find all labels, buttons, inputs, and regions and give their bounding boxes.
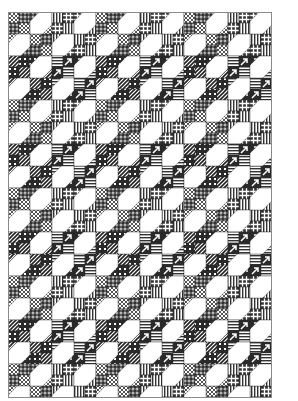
snowball-cell bbox=[30, 100, 52, 122]
quilt-block bbox=[228, 56, 272, 100]
quilt-block bbox=[8, 188, 52, 232]
snowball-cell bbox=[96, 210, 118, 232]
four-patch bbox=[140, 364, 162, 386]
quilt-block bbox=[96, 364, 140, 398]
snowball-cell bbox=[206, 320, 228, 342]
snowball-cell bbox=[30, 276, 52, 298]
four-patch bbox=[162, 210, 184, 232]
snowball-cell bbox=[74, 320, 96, 342]
quilt-block bbox=[228, 188, 272, 232]
quilt-block bbox=[8, 232, 52, 276]
four-patch bbox=[8, 188, 30, 210]
snowball-cell bbox=[250, 144, 272, 166]
snowball-cell bbox=[30, 12, 52, 34]
four-patch bbox=[162, 78, 184, 100]
four-patch bbox=[228, 320, 250, 342]
four-patch bbox=[206, 122, 228, 144]
four-patch bbox=[250, 34, 272, 56]
four-patch bbox=[118, 210, 140, 232]
snowball-cell bbox=[74, 232, 96, 254]
snowball-cell bbox=[140, 298, 162, 320]
quilt-block bbox=[8, 320, 52, 364]
four-patch bbox=[140, 144, 162, 166]
four-patch bbox=[74, 122, 96, 144]
snowball-cell bbox=[8, 34, 30, 56]
four-patch bbox=[206, 342, 228, 364]
snowball-cell bbox=[206, 12, 228, 34]
snowball-cell bbox=[96, 342, 118, 364]
four-patch bbox=[250, 166, 272, 188]
four-patch bbox=[140, 276, 162, 298]
four-patch bbox=[250, 342, 272, 364]
snowball-cell bbox=[96, 34, 118, 56]
four-patch bbox=[52, 232, 74, 254]
quilt-block bbox=[184, 144, 228, 188]
four-patch bbox=[206, 210, 228, 232]
four-patch bbox=[184, 276, 206, 298]
snowball-cell bbox=[118, 232, 140, 254]
quilt-block bbox=[8, 12, 52, 56]
four-patch bbox=[250, 210, 272, 232]
quilt-block bbox=[96, 100, 140, 144]
four-patch bbox=[228, 56, 250, 78]
quilt-block bbox=[184, 320, 228, 364]
four-patch bbox=[228, 276, 250, 298]
four-patch bbox=[250, 122, 272, 144]
four-patch bbox=[228, 12, 250, 34]
four-patch bbox=[96, 144, 118, 166]
four-patch bbox=[228, 188, 250, 210]
snowball-cell bbox=[228, 254, 250, 276]
four-patch bbox=[228, 144, 250, 166]
snowball-cell bbox=[118, 56, 140, 78]
snowball-cell bbox=[162, 56, 184, 78]
four-patch bbox=[118, 298, 140, 320]
quilt-block bbox=[96, 56, 140, 100]
quilt-block bbox=[96, 144, 140, 188]
four-patch bbox=[74, 298, 96, 320]
snowball-cell bbox=[250, 56, 272, 78]
snowball-cell bbox=[74, 12, 96, 34]
quilt-block bbox=[52, 320, 96, 364]
four-patch bbox=[8, 144, 30, 166]
quilt-block bbox=[140, 100, 184, 144]
four-patch bbox=[184, 12, 206, 34]
four-patch bbox=[30, 298, 52, 320]
four-patch bbox=[8, 232, 30, 254]
quilt-block bbox=[140, 12, 184, 56]
snowball-cell bbox=[52, 254, 74, 276]
snowball-cell bbox=[250, 100, 272, 122]
four-patch bbox=[206, 298, 228, 320]
four-patch bbox=[52, 56, 74, 78]
snowball-cell bbox=[8, 166, 30, 188]
snowball-cell bbox=[96, 166, 118, 188]
snowball-cell bbox=[118, 364, 140, 386]
snowball-cell bbox=[140, 78, 162, 100]
four-patch bbox=[206, 254, 228, 276]
snowball-cell bbox=[250, 276, 272, 298]
four-patch bbox=[118, 386, 140, 398]
four-patch bbox=[162, 254, 184, 276]
quilt-block bbox=[228, 144, 272, 188]
quilt-block bbox=[52, 100, 96, 144]
four-patch bbox=[96, 364, 118, 386]
quilt-blocks bbox=[8, 12, 272, 398]
snowball-cell bbox=[228, 34, 250, 56]
snowball-cell bbox=[206, 364, 228, 386]
four-patch bbox=[140, 320, 162, 342]
snowball-cell bbox=[206, 144, 228, 166]
snowball-cell bbox=[140, 122, 162, 144]
snowball-cell bbox=[52, 386, 74, 398]
quilt-block bbox=[140, 320, 184, 364]
quilt-pattern-svg bbox=[8, 12, 272, 398]
snowball-cell bbox=[206, 56, 228, 78]
snowball-cell bbox=[206, 100, 228, 122]
four-patch bbox=[162, 34, 184, 56]
snowball-cell bbox=[162, 232, 184, 254]
snowball-cell bbox=[30, 144, 52, 166]
quilt-block bbox=[96, 188, 140, 232]
snowball-cell bbox=[228, 78, 250, 100]
four-patch bbox=[162, 342, 184, 364]
snowball-cell bbox=[228, 386, 250, 398]
quilt-block bbox=[140, 144, 184, 188]
four-patch bbox=[162, 298, 184, 320]
